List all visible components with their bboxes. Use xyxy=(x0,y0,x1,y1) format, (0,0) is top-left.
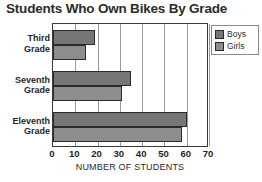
legend-label-boys: Boys xyxy=(227,29,246,39)
y-axis-label-line: Third xyxy=(0,33,50,44)
x-axis-title: NUMBER OF STUDENTS xyxy=(52,162,208,172)
y-axis-label-line: Seventh xyxy=(0,75,50,86)
bar-boys-third-grade xyxy=(53,30,95,45)
bar-girls-seventh-grade xyxy=(53,86,122,101)
bar-boys-eleventh-grade xyxy=(53,112,187,127)
y-axis-label-line: Grade xyxy=(0,85,50,96)
x-tick-70: 70 xyxy=(195,148,221,159)
legend-item-girls[interactable]: Girls xyxy=(215,41,256,51)
y-axis-label-third-grade: ThirdGrade xyxy=(0,33,50,54)
bar-boys-seventh-grade xyxy=(53,71,131,86)
legend-label-girls: Girls xyxy=(227,41,244,51)
bar-girls-third-grade xyxy=(53,45,86,60)
chart-title: Students Who Own Bikes By Grade xyxy=(6,1,258,16)
y-axis-label-line: Grade xyxy=(0,44,50,55)
legend-swatch-boys xyxy=(215,30,224,39)
legend: BoysGirls xyxy=(211,25,259,55)
gridline xyxy=(187,24,188,146)
plot-area xyxy=(52,23,208,147)
chart-screenshot: Students Who Own Bikes By Grade ThirdGra… xyxy=(0,0,262,182)
y-axis-label-line: Grade xyxy=(0,126,50,137)
y-axis-label-eleventh-grade: EleventhGrade xyxy=(0,116,50,137)
legend-swatch-girls xyxy=(215,42,224,51)
gridline xyxy=(209,24,210,146)
y-axis-label-line: Eleventh xyxy=(0,116,50,127)
y-axis-label-seventh-grade: SeventhGrade xyxy=(0,75,50,96)
bar-girls-eleventh-grade xyxy=(53,127,182,142)
legend-item-boys[interactable]: Boys xyxy=(215,29,256,39)
